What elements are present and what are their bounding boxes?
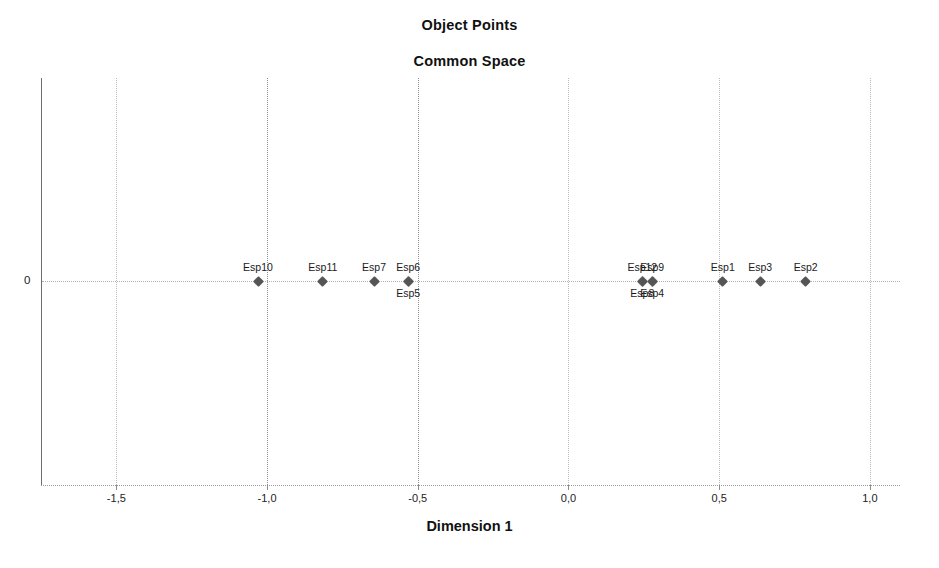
chart-canvas: Object Points Common Space -1,5-1,0-0,50… (0, 0, 939, 568)
x-tick-mark (267, 485, 268, 490)
x-tick-mark (719, 485, 720, 490)
data-point[interactable] (369, 276, 379, 286)
data-point[interactable] (253, 276, 263, 286)
zero-reference-line (42, 281, 900, 282)
title-block: Object Points Common Space (0, 0, 939, 69)
x-tick-label: 1,0 (862, 492, 877, 504)
data-point[interactable] (755, 276, 765, 286)
x-tick-mark (568, 485, 569, 490)
data-point-label: Esp11 (308, 261, 337, 273)
data-point[interactable] (647, 276, 657, 286)
x-tick-label: 0,5 (712, 492, 727, 504)
y-tick-label: 0 (24, 274, 30, 286)
data-point[interactable] (403, 276, 413, 286)
data-point[interactable] (318, 276, 328, 286)
data-point-label: Esp5 (396, 287, 420, 299)
x-axis-spine (41, 485, 900, 486)
gridline (267, 78, 268, 485)
x-tick-label: -1,0 (258, 492, 277, 504)
data-point-label: Esp3 (748, 261, 772, 273)
data-point[interactable] (637, 276, 647, 286)
gridline (418, 78, 419, 485)
x-tick-label: -1,5 (107, 492, 126, 504)
x-tick-label: -0,5 (408, 492, 427, 504)
data-point-label: Esp10 (243, 261, 273, 273)
data-point-label: Esp1 (711, 261, 735, 273)
data-point-label: Esp2 (794, 261, 818, 273)
x-tick-mark (116, 485, 117, 490)
data-point-label: Esp7 (362, 261, 386, 273)
data-point[interactable] (801, 276, 811, 286)
gridline (568, 78, 569, 485)
gridline (870, 78, 871, 485)
data-point-label: Esp9 (640, 261, 664, 273)
chart-title: Object Points (0, 17, 939, 33)
data-point-label: Esp6 (396, 261, 420, 273)
chart-subtitle: Common Space (0, 53, 939, 69)
gridline (116, 78, 117, 485)
x-tick-mark (418, 485, 419, 490)
x-axis-title: Dimension 1 (0, 518, 939, 534)
data-point-label: Esp4 (640, 287, 664, 299)
x-tick-label: 0,0 (561, 492, 576, 504)
x-tick-mark (870, 485, 871, 490)
